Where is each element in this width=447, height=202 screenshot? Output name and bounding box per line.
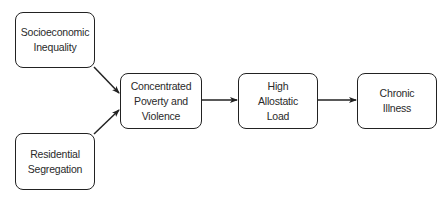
node-socioeconomic-inequality: Socioeconomic Inequality [15,12,95,68]
node-label: Chronic Illness [380,86,415,116]
node-chronic-illness: Chronic Illness [357,73,437,129]
node-label: High Allostatic Load [258,79,298,124]
node-label: Concentrated Poverty and Violence [131,79,192,124]
node-label: Socioeconomic Inequality [21,25,90,55]
node-label: Residential Segregation [28,147,82,177]
edge-socioeconomic-to-poverty [94,67,119,93]
edge-segregation-to-poverty [94,110,119,134]
node-concentrated-poverty-violence: Concentrated Poverty and Violence [120,73,202,129]
node-high-allostatic-load: High Allostatic Load [238,73,318,129]
node-residential-segregation: Residential Segregation [15,133,95,190]
